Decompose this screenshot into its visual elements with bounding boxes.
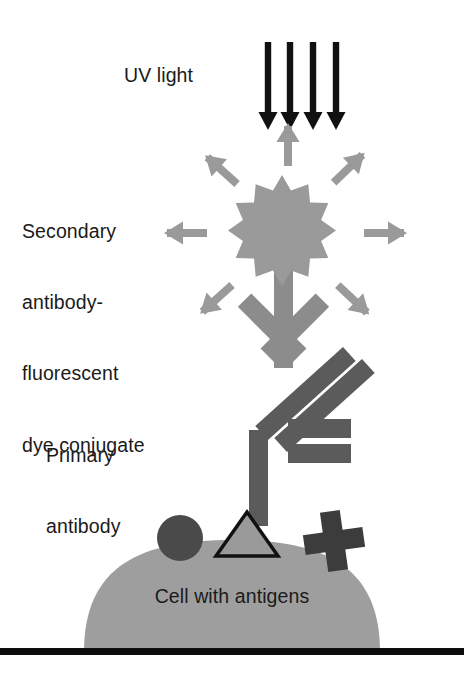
emission-arrow-up bbox=[277, 123, 300, 166]
label-secondary-antibody-line-2: antibody- bbox=[22, 291, 145, 315]
uv-light-arrow bbox=[304, 42, 323, 130]
emission-arrow-lower-left bbox=[192, 276, 239, 322]
label-secondary-antibody-line-3: fluorescent bbox=[22, 362, 145, 386]
slide-baseline bbox=[0, 648, 464, 655]
label-cell-with-antigens: Cell with antigens bbox=[0, 585, 464, 609]
uv-light-arrow bbox=[281, 42, 300, 130]
emission-arrow-lower-right bbox=[330, 277, 377, 323]
emission-arrow-right bbox=[364, 222, 407, 245]
label-primary-antibody-line-2: antibody bbox=[46, 515, 121, 539]
uv-light-arrow bbox=[259, 42, 278, 130]
antigen-circle bbox=[157, 515, 203, 561]
immunofluorescence-diagram: UV light Secondary antibody- fluorescent… bbox=[0, 0, 464, 678]
label-uv-light: UV light bbox=[124, 64, 193, 88]
uv-light-arrow-group bbox=[259, 42, 346, 130]
primary-antibody-shape bbox=[249, 347, 375, 526]
label-secondary-antibody-line-1: Secondary bbox=[22, 220, 145, 244]
emission-arrow-left bbox=[164, 222, 207, 245]
label-primary-antibody-line-1: Primary bbox=[46, 444, 121, 468]
emission-arrow-upper-right bbox=[326, 145, 373, 191]
label-primary-antibody: Primary antibody bbox=[46, 396, 121, 586]
uv-light-arrow bbox=[327, 42, 346, 130]
antigen-triangle bbox=[216, 512, 278, 556]
emission-arrow-upper-left bbox=[197, 147, 244, 193]
fluorescent-dye-star bbox=[228, 175, 336, 286]
